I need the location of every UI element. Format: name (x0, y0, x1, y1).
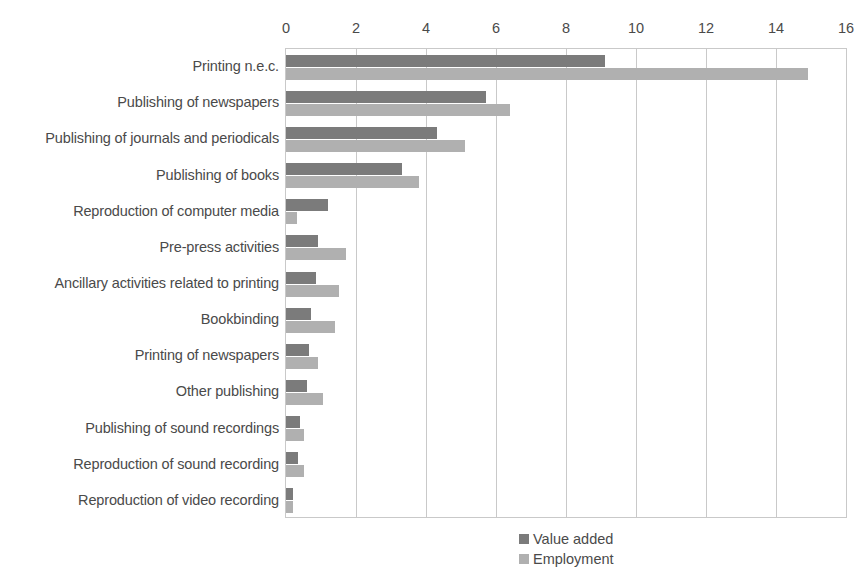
bar-value-added (286, 488, 293, 500)
bar-employment (286, 176, 419, 188)
bar-value-added (286, 163, 402, 175)
bar-value-added (286, 127, 437, 139)
x-tick-label: 12 (698, 20, 714, 36)
x-tick-label: 2 (352, 20, 360, 36)
bar-value-added (286, 272, 316, 284)
bar-employment (286, 248, 346, 260)
bar-value-added (286, 344, 309, 356)
bar-value-added (286, 416, 300, 428)
chart-title (0, 0, 858, 5)
y-axis-category-label: Pre-press activities (0, 239, 279, 255)
bar-employment (286, 140, 465, 152)
y-axis-category-label: Ancillary activities related to printing (0, 275, 279, 291)
bar-value-added (286, 55, 605, 67)
legend-item[interactable]: Employment (519, 549, 614, 569)
bar-value-added (286, 452, 298, 464)
x-tick-label: 6 (492, 20, 500, 36)
x-tick-label: 10 (628, 20, 644, 36)
y-axis-category-labels: Printing n.e.c.Publishing of newspapersP… (0, 48, 279, 518)
bar-employment (286, 285, 339, 297)
legend-label: Employment (533, 552, 614, 567)
chart-legend: Value addedEmployment (519, 529, 614, 569)
bar-value-added (286, 199, 328, 211)
x-tick-label: 4 (422, 20, 430, 36)
bar-employment (286, 357, 318, 369)
bar-employment (286, 104, 510, 116)
y-axis-category-label: Printing of newspapers (0, 347, 279, 363)
y-axis-category-label: Publishing of sound recordings (0, 420, 279, 436)
bar-value-added (286, 308, 311, 320)
y-axis-category-label: Bookbinding (0, 311, 279, 327)
legend-swatch-icon (519, 554, 529, 564)
bar-employment (286, 68, 808, 80)
bar-employment (286, 465, 304, 477)
x-tick-label: 14 (768, 20, 784, 36)
bar-value-added (286, 235, 318, 247)
bars-layer (286, 49, 846, 517)
legend-label: Value added (533, 532, 613, 547)
y-axis-category-label: Publishing of journals and periodicals (0, 130, 279, 146)
bar-value-added (286, 91, 486, 103)
x-axis-tick-labels: 0246810121416 (0, 20, 858, 42)
legend-item[interactable]: Value added (519, 529, 614, 549)
y-axis-category-label: Other publishing (0, 383, 279, 399)
y-axis-category-label: Publishing of books (0, 167, 279, 183)
y-axis-category-label: Reproduction of video recording (0, 492, 279, 508)
bar-value-added (286, 380, 307, 392)
bar-employment (286, 501, 293, 513)
x-tick-label: 0 (282, 20, 290, 36)
legend-swatch-icon (519, 534, 529, 544)
y-axis-category-label: Printing n.e.c. (0, 58, 279, 74)
bar-employment (286, 212, 297, 224)
y-axis-category-label: Reproduction of computer media (0, 203, 279, 219)
bar-employment (286, 321, 335, 333)
y-axis-category-label: Publishing of newspapers (0, 94, 279, 110)
bar-chart: 0246810121416 Printing n.e.c.Publishing … (0, 0, 858, 587)
y-axis-category-label: Reproduction of sound recording (0, 456, 279, 472)
x-tick-label: 16 (838, 20, 854, 36)
x-tick-label: 8 (562, 20, 570, 36)
bar-employment (286, 429, 304, 441)
bar-employment (286, 393, 323, 405)
